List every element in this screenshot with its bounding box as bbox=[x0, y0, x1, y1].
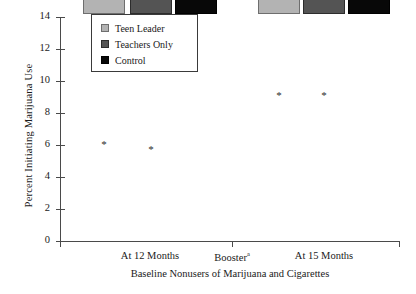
x-group-label-at-12-months-text: At 12 Months bbox=[121, 250, 179, 261]
legend-item-teachers-only: Teachers Only bbox=[101, 36, 197, 52]
y-tick-label-6: 6 bbox=[45, 138, 50, 149]
y-axis-title: Percent Initiating Marijuana Use bbox=[23, 36, 34, 236]
y-tick-label-2: 2 bbox=[45, 202, 50, 213]
y-tick-4: 4 bbox=[56, 177, 65, 178]
y-tick-label-4: 4 bbox=[45, 170, 50, 181]
y-tick-label-10: 10 bbox=[40, 74, 51, 85]
y-tick-label-12: 12 bbox=[40, 42, 51, 53]
legend-swatch-teen-leader bbox=[101, 24, 109, 32]
chart-legend: Teen Leader Teachers Only Control bbox=[91, 14, 198, 72]
y-tick-14: 14 bbox=[56, 17, 65, 18]
y-tick-2: 2 bbox=[56, 209, 65, 210]
x-group-label-booster-superscript: a bbox=[247, 250, 250, 257]
bar-chart-figure: Percent Initiating Marijuana Use 14 12 1… bbox=[0, 0, 416, 294]
significance-marker-12mo-teachers-only: * bbox=[148, 144, 154, 155]
x-tick-left bbox=[60, 241, 61, 247]
y-tick-10: 10 bbox=[56, 81, 65, 82]
bar-12mo-teen-leader bbox=[83, 0, 125, 14]
x-group-label-at-12-months: At 12 Months bbox=[121, 250, 179, 261]
x-axis-title: Baseline Nonusers of Marijuana and Cigar… bbox=[60, 268, 400, 279]
x-group-label-booster: Boostera bbox=[214, 250, 250, 263]
significance-marker-15mo-teachers-only: * bbox=[321, 90, 327, 101]
y-tick-8: 8 bbox=[56, 113, 65, 114]
bar-15mo-teachers-only bbox=[303, 0, 345, 14]
y-tick-label-14: 14 bbox=[40, 10, 51, 21]
x-group-label-at-15-months: At 15 Months bbox=[295, 250, 353, 261]
y-tick-6: 6 bbox=[56, 145, 65, 146]
bar-15mo-control bbox=[348, 0, 390, 14]
x-group-label-at-15-months-text: At 15 Months bbox=[295, 250, 353, 261]
legend-label-teen-leader: Teen Leader bbox=[115, 23, 165, 34]
significance-marker-15mo-teen-leader: * bbox=[276, 90, 282, 101]
bar-12mo-teachers-only bbox=[130, 0, 172, 14]
legend-item-control: Control bbox=[101, 52, 197, 68]
x-axis-line bbox=[60, 241, 400, 242]
y-tick-12: 12 bbox=[56, 49, 65, 50]
legend-label-control: Control bbox=[115, 55, 146, 66]
y-tick-label-0: 0 bbox=[45, 234, 50, 245]
x-tick-booster bbox=[232, 241, 233, 247]
significance-marker-12mo-teen-leader: * bbox=[101, 139, 107, 150]
legend-label-teachers-only: Teachers Only bbox=[115, 39, 173, 50]
x-group-label-booster-text: Booster bbox=[214, 252, 247, 263]
x-tick-right bbox=[399, 241, 400, 247]
bar-12mo-control bbox=[175, 0, 217, 14]
legend-swatch-teachers-only bbox=[101, 40, 109, 48]
y-tick-label-8: 8 bbox=[45, 106, 50, 117]
legend-swatch-control bbox=[101, 56, 109, 64]
legend-item-teen-leader: Teen Leader bbox=[101, 20, 197, 36]
bar-15mo-teen-leader bbox=[258, 0, 300, 14]
